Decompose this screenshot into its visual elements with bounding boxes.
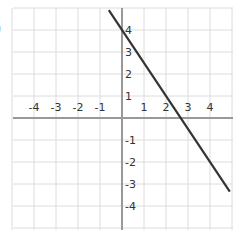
y-tick-label: -2 (125, 156, 136, 169)
x-tick-label: -1 (95, 101, 106, 114)
x-tick-label: 1 (141, 101, 148, 114)
y-tick-label: 1 (125, 90, 132, 103)
x-tick-label: -3 (51, 101, 62, 114)
x-tick-label: 4 (207, 101, 214, 114)
x-tick-label: -4 (29, 101, 40, 114)
x-tick-label: -2 (73, 101, 84, 114)
x-tick-label: 3 (185, 101, 192, 114)
y-tick-label: -4 (125, 200, 136, 213)
axes (13, 8, 233, 230)
y-tick-label: -1 (125, 134, 136, 147)
x-tick-label: 2 (163, 101, 170, 114)
y-tick-label: 2 (125, 68, 132, 81)
y-tick-label: 3 (125, 46, 132, 59)
y-tick-label: -3 (125, 178, 136, 191)
coordinate-plane: -4-3-2-112344321-1-2-3-4 (0, 0, 239, 233)
